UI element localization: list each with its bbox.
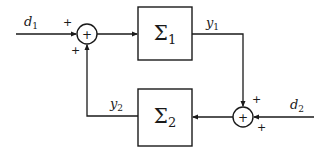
block-sigma2: Σ2: [138, 89, 192, 146]
d2-label: d2: [290, 97, 304, 114]
sigma1-input-arrow-icon: [132, 32, 138, 37]
d2-arrow-icon: [253, 115, 259, 120]
sum1-sign-bottom: +: [71, 44, 80, 57]
d1-label: d1: [24, 14, 38, 31]
sum1-bottom-arrow-icon: [85, 44, 90, 50]
y2-label: y2: [109, 96, 123, 113]
sum2-top-arrow-icon: [241, 101, 246, 107]
d1-arrow-icon: [71, 32, 77, 37]
summing-junction-2: +: [233, 107, 253, 127]
sum1-sign-top: +: [63, 16, 72, 29]
sigma2-input-arrow-icon: [192, 115, 198, 120]
sum2-plus-icon: +: [238, 111, 248, 125]
block-sigma1: Σ1: [138, 7, 192, 60]
sum1-plus-icon: +: [82, 28, 92, 42]
sum2-sign-top: +: [252, 93, 261, 106]
y1-wire: [192, 34, 243, 106]
feedback-diagram: d1 + + + Σ1 y1 + + + d2 Σ2: [0, 0, 321, 152]
sum2-sign-right: +: [257, 121, 266, 134]
summing-junction-1: +: [77, 24, 97, 44]
y1-label: y1: [205, 15, 219, 32]
